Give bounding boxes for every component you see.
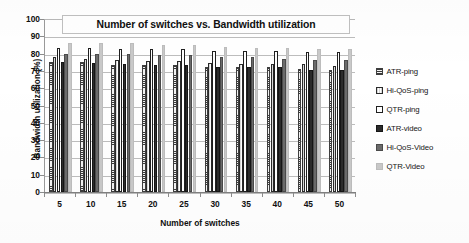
legend-item-atr-video[interactable]: ATR-video	[376, 119, 468, 138]
legend-label: ATR-video	[387, 124, 422, 133]
plot-area	[44, 19, 355, 192]
y-axis-tick	[40, 88, 44, 89]
legend-swatch-icon	[376, 106, 383, 113]
bar-group	[76, 20, 107, 192]
x-axis-tick-label: 25	[168, 199, 199, 209]
bar-chart: Bandwidth utilization (%) 10090807060504…	[0, 0, 469, 243]
x-axis-tick	[137, 193, 138, 197]
y-axis-tick	[40, 106, 44, 107]
x-axis-tick-label: 20	[137, 199, 168, 209]
legend-label: QTR-ping	[387, 105, 420, 114]
x-axis-tick	[355, 193, 356, 197]
bar-qtr-video	[348, 49, 351, 192]
x-axis-tick-label: 10	[75, 199, 106, 209]
x-axis-tick	[75, 193, 76, 197]
bar-qtr-video	[130, 43, 133, 192]
y-axis-tick	[40, 19, 44, 20]
x-axis-tick-label: 50	[324, 199, 355, 209]
y-axis-tick-label: 70	[14, 67, 40, 75]
legend-item-hi-qos-video[interactable]: Hi-QoS-Video	[376, 138, 468, 157]
y-axis-tick	[40, 175, 44, 176]
bar-qtr-video	[255, 48, 258, 192]
x-axis-tick	[168, 193, 169, 197]
x-axis-tick	[324, 193, 325, 197]
bar-group	[294, 20, 325, 192]
legend-swatch-icon	[376, 163, 383, 170]
x-axis-tick-label: 35	[231, 199, 262, 209]
bar-group	[201, 20, 232, 192]
x-axis-tick-label: 5	[44, 199, 75, 209]
legend-item-qtr-video[interactable]: QTR-Video	[376, 157, 468, 176]
y-axis-tick-label: 20	[14, 153, 40, 161]
bar-group	[263, 20, 294, 192]
bar-qtr-video	[68, 43, 71, 192]
bar-qtr-video	[99, 43, 102, 192]
legend-item-hi-qos-ping[interactable]: Hi-QoS-ping	[376, 81, 468, 100]
x-axis-tick	[231, 193, 232, 197]
legend-label: Hi-QoS-ping	[387, 86, 429, 95]
bar-qtr-video	[317, 49, 320, 192]
bar-group	[232, 20, 263, 192]
x-axis-tick-label: 15	[106, 199, 137, 209]
x-axis-tick	[293, 193, 294, 197]
y-axis-tick-label: 50	[14, 102, 40, 110]
x-axis-tick	[44, 193, 45, 197]
legend-swatch-icon	[376, 144, 383, 151]
x-axis-tick-label: 40	[262, 199, 293, 209]
chart-title-box: Number of switches vs. Bandwidth utiliza…	[62, 15, 350, 34]
bar-qtr-video	[193, 45, 196, 192]
bar-qtr-video	[286, 48, 289, 192]
y-axis-tick-label: 30	[14, 136, 40, 144]
x-axis-tick	[262, 193, 263, 197]
y-axis-tick-label: 60	[14, 84, 40, 92]
y-axis-tick-label: 10	[14, 171, 40, 179]
legend-swatch-icon	[376, 125, 383, 132]
legend-label: QTR-Video	[387, 162, 425, 171]
legend-item-atr-ping[interactable]: ATR-ping	[376, 62, 468, 81]
y-axis-tick	[40, 54, 44, 55]
y-axis-tick-label: 0	[14, 188, 40, 196]
y-axis-tick-label: 40	[14, 119, 40, 127]
bar-group	[107, 20, 138, 192]
y-axis-tick	[40, 36, 44, 37]
bar-group	[45, 20, 76, 192]
y-axis-tick	[40, 71, 44, 72]
y-axis-tick	[40, 157, 44, 158]
legend-swatch-icon	[376, 68, 383, 75]
y-axis-tick	[40, 123, 44, 124]
legend-label: ATR-ping	[387, 67, 419, 76]
bar-group	[169, 20, 200, 192]
bar-group	[325, 20, 356, 192]
legend-item-qtr-ping[interactable]: QTR-ping	[376, 100, 468, 119]
chart-title: Number of switches vs. Bandwidth utiliza…	[96, 19, 315, 30]
y-axis-tick-label: 80	[14, 50, 40, 58]
bar-group	[138, 20, 169, 192]
x-axis-tick	[200, 193, 201, 197]
x-axis-title: Number of switches	[44, 218, 356, 228]
y-axis-tick-label: 90	[14, 32, 40, 40]
chart-legend: ATR-pingHi-QoS-pingQTR-pingATR-videoHi-Q…	[376, 62, 468, 176]
x-axis-tick	[106, 193, 107, 197]
legend-swatch-icon	[376, 87, 383, 94]
legend-label: Hi-QoS-Video	[387, 143, 434, 152]
x-axis-tick-label: 30	[200, 199, 231, 209]
bar-qtr-video	[224, 47, 227, 192]
bar-qtr-video	[162, 45, 165, 192]
y-axis-tick-labels: 1009080706050403020100	[14, 19, 40, 199]
y-axis-tick-label: 100	[14, 15, 40, 23]
y-axis-tick	[40, 140, 44, 141]
x-axis-tick-label: 45	[293, 199, 324, 209]
